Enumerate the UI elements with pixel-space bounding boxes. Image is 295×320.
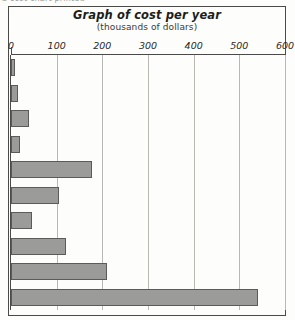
- bar: [11, 238, 66, 255]
- top-caption-text: a cost chart printed: [2, 0, 85, 3]
- bar-row: [11, 59, 15, 76]
- x-tick-label-400: 400: [185, 40, 203, 51]
- chart-page: a cost chart printed Graph of cost per y…: [0, 0, 295, 320]
- x-axis-left-cap: [11, 47, 12, 55]
- bar: [11, 161, 92, 178]
- x-tick-label-200: 200: [93, 40, 111, 51]
- bar: [11, 136, 20, 153]
- x-tick-label-500: 500: [230, 40, 248, 51]
- bar: [11, 59, 15, 76]
- bar-row: [11, 161, 92, 178]
- bar-row: [11, 85, 18, 102]
- bar-row: [11, 263, 107, 280]
- bar-row: [11, 187, 59, 204]
- plot-area: [11, 55, 285, 310]
- gridline-500: [239, 55, 240, 310]
- bar-row: [11, 136, 20, 153]
- bar-row: [11, 238, 66, 255]
- x-axis-right-cap: [285, 47, 286, 55]
- x-axis-tick-labels: 0100200300400500600: [0, 40, 295, 52]
- bar: [11, 85, 18, 102]
- gridline-300: [148, 55, 149, 310]
- bar: [11, 212, 32, 229]
- bar: [11, 289, 258, 306]
- x-tick-label-300: 300: [139, 40, 157, 51]
- bar-row: [11, 110, 29, 127]
- bar: [11, 110, 29, 127]
- bar-row: [11, 289, 258, 306]
- gridline-400: [194, 55, 195, 310]
- bar-row: [11, 212, 32, 229]
- gridline-600: [285, 55, 286, 310]
- x-tick-label-100: 100: [48, 40, 66, 51]
- bar: [11, 187, 59, 204]
- bar: [11, 263, 107, 280]
